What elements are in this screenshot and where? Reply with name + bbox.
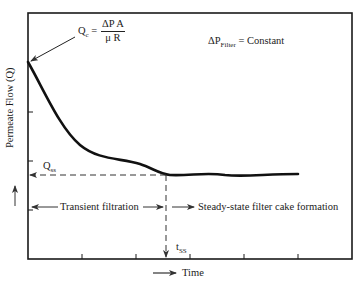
- qc-symbol: Q: [78, 25, 86, 36]
- qss-label: Qss: [43, 161, 56, 172]
- qss-subscript: ss: [51, 166, 56, 174]
- tss-label: tSS: [176, 242, 187, 253]
- steady-state-label: Steady-state filter cake formation: [198, 202, 338, 213]
- qc-numerator: ΔP A: [101, 19, 125, 32]
- qc-fraction: ΔP A μ R: [101, 19, 125, 43]
- pressure-constant-label: ΔPFilter = Constant: [208, 36, 284, 47]
- x-axis-label: Time: [182, 268, 204, 279]
- y-axis-label: Permeate Flow (Q): [4, 68, 15, 148]
- plot-frame: [28, 13, 352, 259]
- qc-label: Qc =: [78, 26, 97, 37]
- permeate-flow-curve: [28, 62, 298, 176]
- tss-subscript: SS: [179, 247, 187, 255]
- qc-denominator: μ R: [101, 32, 125, 44]
- pressure-rest: = Constant: [236, 35, 285, 46]
- qss-symbol: Q: [43, 160, 51, 171]
- pressure-symbol: ΔP: [208, 35, 221, 46]
- pressure-subscript: Filter: [221, 41, 236, 49]
- qc-equals: =: [91, 25, 97, 36]
- qc-subscript: c: [86, 31, 89, 39]
- qc-pointer-arrow: [31, 37, 75, 61]
- transient-filtration-label: Transient filtration: [60, 202, 139, 213]
